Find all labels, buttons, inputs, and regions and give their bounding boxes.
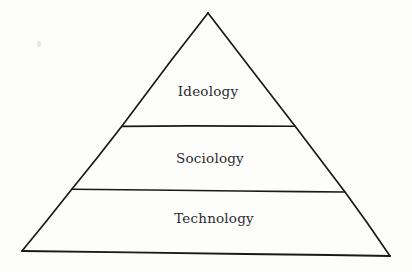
pyramid-tier-label-technology: Technology [174, 212, 254, 226]
pyramid-shape [0, 0, 412, 272]
scan-artifact-speck [37, 41, 41, 47]
pyramid-tier-label-ideology: Ideology [178, 85, 238, 99]
pyramid-base-edge [22, 251, 390, 256]
pyramid-divider-upper [122, 126, 295, 127]
pyramid-tier-label-sociology: Sociology [176, 152, 244, 166]
pyramid-divider-lower [72, 189, 345, 192]
pyramid-diagram-canvas: Ideology Sociology Technology [0, 0, 412, 272]
